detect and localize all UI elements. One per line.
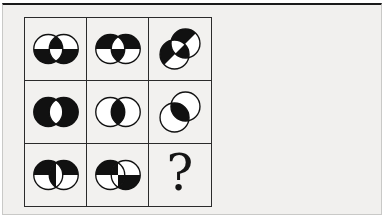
matrix-cell-r2c2 (87, 81, 149, 144)
venn-diagram-figure (27, 83, 85, 141)
matrix-cell-r1c2 (87, 18, 149, 81)
matrix-cell-r2c1 (25, 81, 87, 144)
matrix-cell-r3c1 (25, 144, 87, 206)
matrix-cell-r3c3: ? (149, 144, 211, 206)
matrix-cell-r3c2 (87, 144, 149, 206)
matrix-cell-r1c1 (25, 18, 87, 81)
venn-diagram-figure (89, 20, 147, 78)
question-mark: ? (167, 148, 194, 198)
venn-diagram-figure (89, 146, 147, 204)
page-panel: ? (2, 3, 382, 215)
venn-diagram-figure (27, 20, 85, 78)
matrix-cell-r1c3 (149, 18, 211, 81)
venn-diagram-figure (151, 20, 209, 78)
puzzle-grid: ? (24, 17, 212, 207)
venn-diagram-figure (27, 146, 85, 204)
screenshot-root: { "page": { "background_color": "#f1f0ee… (0, 0, 383, 216)
venn-diagram-figure (151, 83, 209, 141)
matrix-cell-r2c3 (149, 81, 211, 144)
venn-diagram-figure (89, 83, 147, 141)
